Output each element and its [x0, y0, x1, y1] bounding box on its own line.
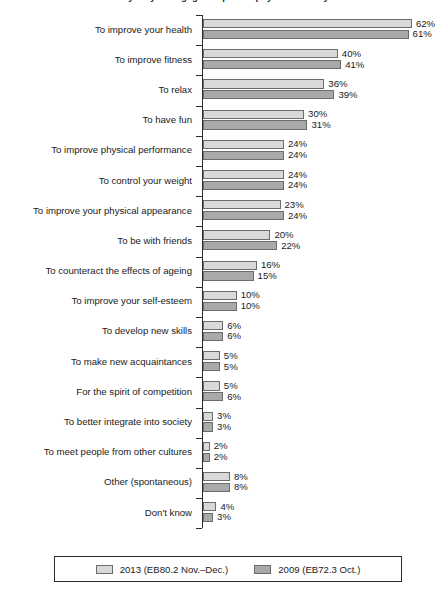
bar — [203, 211, 284, 220]
chart-title: Why do you engage in sport or physical a… — [0, 0, 448, 5]
bar-item: 3% — [203, 412, 448, 421]
axis-tick — [196, 377, 202, 378]
bar-value-label: 62% — [416, 19, 435, 29]
bar — [203, 422, 213, 431]
axis-tick — [196, 317, 202, 318]
category-label: To control your weight — [0, 175, 198, 186]
bar-value-label: 6% — [227, 321, 241, 331]
bar — [203, 453, 210, 462]
bar-row: To improve your health62%61% — [0, 14, 448, 44]
bar-item: 6% — [203, 392, 448, 401]
bar-row: To develop new skills6%6% — [0, 316, 448, 346]
bar-group: 24%24% — [198, 165, 448, 195]
axis-tick — [196, 257, 202, 258]
bar-value-label: 6% — [227, 392, 241, 402]
bar-value-label: 36% — [328, 79, 347, 89]
category-label: To be with friends — [0, 235, 198, 246]
bar — [203, 60, 341, 69]
legend-entry[interactable]: 2013 (EB80.2 Nov.–Dec.) — [96, 564, 229, 575]
bar-item: 24% — [203, 140, 448, 149]
category-label: To improve fitness — [0, 54, 198, 65]
bar-item: 20% — [203, 230, 448, 239]
category-label: To counteract the effects of ageing — [0, 265, 198, 276]
bar-value-label: 2% — [214, 441, 228, 451]
bar — [203, 200, 281, 209]
bar-item: 10% — [203, 302, 448, 311]
bar-group: 3%3% — [198, 406, 448, 436]
bar — [203, 392, 223, 401]
bar-value-label: 10% — [241, 290, 260, 300]
bar-value-label: 24% — [288, 211, 307, 221]
bar — [203, 79, 324, 88]
axis-tick — [196, 528, 202, 529]
bar-value-label: 6% — [227, 331, 241, 341]
bar-row: To have fun30%31% — [0, 105, 448, 135]
bar — [203, 49, 338, 58]
bar-value-label: 23% — [285, 200, 304, 210]
bar — [203, 351, 220, 360]
axis-tick — [196, 106, 202, 107]
category-label: To improve your health — [0, 24, 198, 35]
bar-item: 2% — [203, 442, 448, 451]
bar-value-label: 5% — [224, 362, 238, 372]
bar — [203, 502, 216, 511]
bar-group: 8%8% — [198, 467, 448, 497]
light-gray-swatch-icon — [96, 565, 113, 574]
axis-tick — [196, 136, 202, 137]
bar-item: 24% — [203, 170, 448, 179]
bar-value-label: 40% — [342, 49, 361, 59]
bar-group: 16%15% — [198, 256, 448, 286]
bar-item: 3% — [203, 513, 448, 522]
bar-group: 6%6% — [198, 316, 448, 346]
bar — [203, 261, 257, 270]
bar-value-label: 4% — [220, 502, 234, 512]
axis-tick — [196, 196, 202, 197]
bar — [203, 381, 220, 390]
bar-value-label: 20% — [274, 230, 293, 240]
axis-tick — [196, 45, 202, 46]
bar-item: 2% — [203, 453, 448, 462]
bar-item: 24% — [203, 151, 448, 160]
bar — [203, 321, 223, 330]
bar-row: To make new acquaintances5%5% — [0, 346, 448, 376]
chart-title-text: Why do you engage in sport or physical a… — [0, 0, 448, 3]
bar-group: 10%10% — [198, 286, 448, 316]
bar — [203, 30, 409, 39]
category-label: To make new acquaintances — [0, 356, 198, 367]
bar — [203, 412, 213, 421]
bar-group: 20%22% — [198, 225, 448, 255]
bar — [203, 472, 230, 481]
category-label: To better integrate into society — [0, 416, 198, 427]
bar-group: 5%6% — [198, 376, 448, 406]
axis-tick — [196, 15, 202, 16]
bar — [203, 90, 334, 99]
bar-row: For the spirit of competition5%6% — [0, 376, 448, 406]
bar-value-label: 5% — [224, 351, 238, 361]
bar-group: 24%24% — [198, 135, 448, 165]
bar — [203, 241, 277, 250]
bar-group: 23%24% — [198, 195, 448, 225]
bar-value-label: 41% — [345, 60, 364, 70]
axis-tick — [196, 408, 202, 409]
bar-row: Other (spontaneous)8%8% — [0, 467, 448, 497]
axis-tick — [196, 75, 202, 76]
bar-row: To improve physical performance24%24% — [0, 135, 448, 165]
bar-row: To improve fitness40%41% — [0, 44, 448, 74]
bar-row: To control your weight24%24% — [0, 165, 448, 195]
category-label: To improve physical performance — [0, 144, 198, 155]
bar-item: 10% — [203, 291, 448, 300]
bar-value-label: 15% — [258, 271, 277, 281]
bar-value-label: 31% — [311, 120, 330, 130]
bar-value-label: 22% — [281, 241, 300, 251]
bar-row: To better integrate into society3%3% — [0, 406, 448, 436]
bar — [203, 271, 254, 280]
bar — [203, 110, 304, 119]
bar — [203, 483, 230, 492]
axis-tick — [196, 287, 202, 288]
bar-item: 3% — [203, 422, 448, 431]
bar-item: 30% — [203, 110, 448, 119]
legend-entry[interactable]: 2009 (EB72.3 Oct.) — [254, 564, 360, 575]
bar-item: 39% — [203, 90, 448, 99]
bar — [203, 362, 220, 371]
bar-value-label: 61% — [413, 29, 432, 39]
